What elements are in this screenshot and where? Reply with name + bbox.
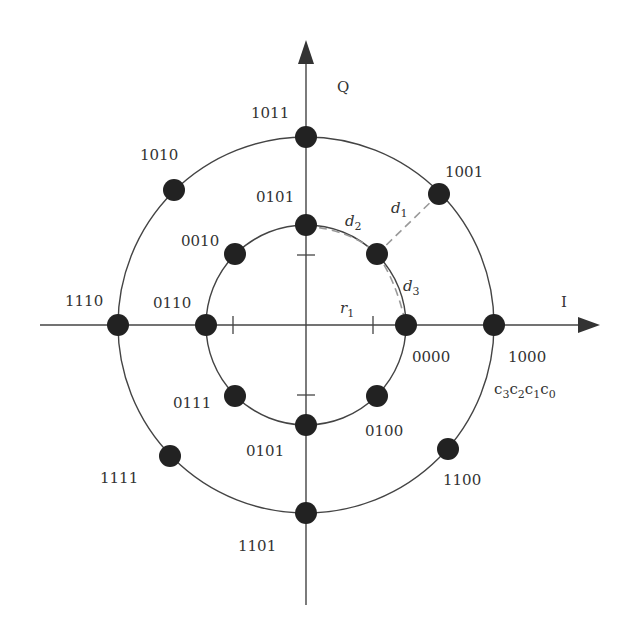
d1-label: d1 — [391, 199, 408, 220]
d3-dashed-line — [377, 254, 406, 325]
label-0110: 0110 — [153, 294, 191, 312]
q-axis-label: Q — [337, 78, 349, 96]
point-0101-top — [295, 214, 317, 236]
label-0000: 0000 — [412, 348, 450, 366]
label-1110: 1110 — [65, 292, 103, 310]
d1-dashed-line — [377, 194, 439, 254]
i-axis-arrow-icon — [578, 317, 600, 333]
label-1010: 1010 — [140, 146, 178, 164]
q-axis-arrow-icon — [298, 40, 314, 64]
i-axis-label: I — [561, 293, 567, 311]
label-0010: 0010 — [181, 232, 219, 250]
bit-order-label: c3c2c1c0 — [494, 380, 556, 401]
label-1101: 1101 — [238, 537, 276, 555]
d3-label: d3 — [403, 277, 420, 298]
point-1111 — [159, 445, 181, 467]
label-1001: 1001 — [445, 163, 483, 181]
label-0100: 0100 — [365, 422, 403, 440]
label-1000: 1000 — [508, 348, 546, 366]
point-0000 — [395, 314, 417, 336]
point-0111 — [224, 385, 246, 407]
label-0101-bottom: 0101 — [246, 442, 284, 460]
point-1000 — [483, 314, 505, 336]
point-0110 — [195, 314, 217, 336]
point-0100 — [366, 385, 388, 407]
point-0010 — [224, 243, 246, 265]
point-1110 — [107, 314, 129, 336]
constellation-diagram: Q I 1011 1010 1001 0101 0010 1110 0110 0… — [0, 0, 632, 631]
point-0001 — [366, 243, 388, 265]
d2-dashed-line — [306, 226, 377, 254]
label-1011: 1011 — [251, 104, 289, 122]
point-1010 — [163, 179, 185, 201]
point-0101-bottom — [295, 414, 317, 436]
r1-label: r1 — [340, 299, 354, 320]
d2-label: d2 — [345, 212, 362, 233]
point-1011 — [295, 126, 317, 148]
label-1111: 1111 — [100, 469, 138, 487]
point-1101 — [295, 502, 317, 524]
label-1100: 1100 — [443, 471, 481, 489]
point-1001 — [428, 183, 450, 205]
label-0111: 0111 — [173, 394, 211, 412]
point-1100 — [437, 438, 459, 460]
label-0101-top: 0101 — [256, 188, 294, 206]
